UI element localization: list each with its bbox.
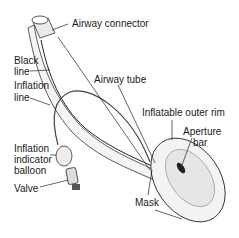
mask [135,124,239,236]
label-black-line-2: line [14,66,30,77]
label-inflatable-outer-rim: Inflatable outer rim [142,107,225,118]
label-aperture-bar-2: bar [193,137,207,148]
lma-illustration [0,0,239,238]
label-black-line-1: Black [14,55,38,66]
label-inflation-line-2: line [14,92,30,103]
label-airway-tube: Airway tube [94,74,146,85]
inflation-indicator-balloon [56,146,72,166]
label-balloon-3: balloon [14,165,46,176]
label-balloon-1: Inflation [14,143,49,154]
label-aperture-bar-1: Aperture [183,126,221,137]
valve [66,167,79,184]
label-airway-connector: Airway connector [72,18,149,29]
label-mask: Mask [135,197,159,208]
label-valve: Valve [14,183,38,194]
label-balloon-2: indicator [14,154,52,165]
label-inflation-line-1: Inflation [14,80,49,91]
